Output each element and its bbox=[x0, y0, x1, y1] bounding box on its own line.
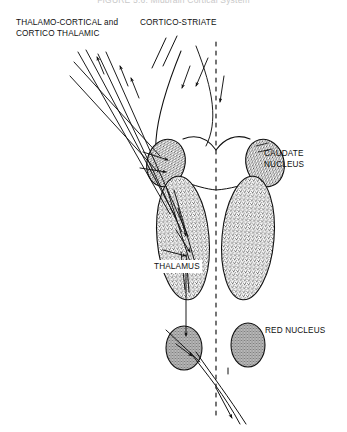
cortico-striate-strokes bbox=[152, 36, 177, 68]
label-cortico-striate-text: CORTICO-STRIATE bbox=[140, 18, 217, 27]
red-nucleus-right bbox=[231, 323, 265, 367]
lateral-fiber bbox=[196, 46, 213, 146]
label-thalamo-cortical-tract: THALAMO-CORTICAL and CORTICO THALAMIC bbox=[16, 17, 118, 39]
label-thalamo-cortical-line1: THALAMO-CORTICAL and bbox=[16, 18, 118, 27]
label-red-nucleus: RED NUCLEUS bbox=[265, 325, 325, 336]
thalamus-left bbox=[152, 174, 215, 302]
thalamus-right bbox=[217, 174, 280, 302]
label-thalamo-cortical-line2: CORTICO THALAMIC bbox=[16, 29, 100, 38]
cortico-striate-tract bbox=[70, 62, 168, 172]
label-red-nucleus-text: RED NUCLEUS bbox=[265, 326, 325, 335]
thalamo-cortical-arrowheads bbox=[97, 57, 139, 98]
label-cortico-striate-tract: CORTICO-STRIATE bbox=[140, 17, 217, 28]
neuroanatomy-diagram bbox=[0, 0, 347, 432]
label-caudate-line1: CAUDATE bbox=[264, 149, 304, 158]
label-caudate-nucleus: CAUDATE NUCLEUS bbox=[264, 148, 304, 170]
figure-root: FIGURE 5.6: Midbrain Cortical System bbox=[0, 0, 347, 432]
label-thalamus: THALAMUS bbox=[152, 260, 202, 273]
label-caudate-line2: NUCLEUS bbox=[264, 159, 304, 170]
label-thalamus-text: THALAMUS bbox=[154, 262, 200, 271]
red-nucleus-left bbox=[166, 326, 202, 370]
